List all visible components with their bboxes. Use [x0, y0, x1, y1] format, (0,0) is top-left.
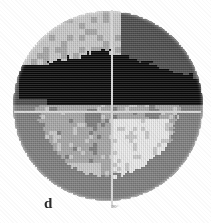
- panel-label: d: [44, 196, 52, 211]
- circular-map-disk: [13, 11, 203, 201]
- axis-tick-label: 90°: [100, 204, 130, 209]
- figure-panel-d: d 90°: [0, 0, 211, 223]
- shaded-contour-map: [13, 11, 203, 201]
